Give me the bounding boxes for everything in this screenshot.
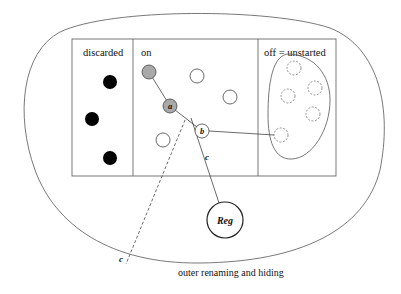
unstarted-group-boundary xyxy=(268,54,330,159)
discarded-node xyxy=(85,112,99,126)
panel-label-off: off = unstarted xyxy=(264,47,326,58)
idle-node xyxy=(156,133,170,147)
node-reg-label: Reg xyxy=(216,215,233,226)
panel-label-on: on xyxy=(141,47,152,58)
node-b-label: b xyxy=(200,126,204,136)
unstarted-node xyxy=(281,89,295,103)
unstarted-node xyxy=(308,81,322,95)
idle-node xyxy=(190,69,204,83)
edge-c-dashed-label: c xyxy=(119,254,123,264)
panel-label-discarded: discarded xyxy=(83,47,124,58)
node-b: b xyxy=(195,124,209,138)
unstarted-node xyxy=(306,107,320,121)
edge-b-to-unstarted xyxy=(209,131,274,135)
edge-c-solid-label: c xyxy=(205,152,209,162)
node-a: a xyxy=(163,99,177,113)
outer-scope-boundary xyxy=(24,13,384,263)
discarded-node xyxy=(103,151,117,165)
discarded-node xyxy=(103,75,117,89)
idle-node xyxy=(223,90,237,104)
node-reg: Reg xyxy=(207,202,243,238)
unstarted-node xyxy=(287,61,301,75)
unstarted-node xyxy=(274,128,288,142)
active-node xyxy=(142,65,156,79)
outer-scope-label: outer renaming and hiding xyxy=(178,267,284,278)
edge-c-dashed xyxy=(126,120,185,264)
diagram-canvas: discarded on off = unstarted a b Reg c c… xyxy=(0,0,401,294)
